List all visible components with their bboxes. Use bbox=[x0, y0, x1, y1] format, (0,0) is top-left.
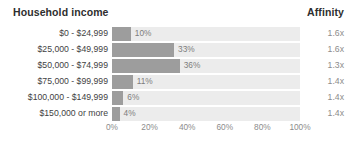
x-axis-tick-label: 0% bbox=[106, 122, 118, 132]
chart-row: $25,000 - $49,99933%1.6x bbox=[0, 42, 352, 58]
chart-header: Household income Affinity bbox=[0, 6, 352, 24]
x-axis-tick-label: 60% bbox=[216, 122, 233, 132]
chart-plot-area: $0 - $24,99910%1.6x$25,000 - $49,99933%1… bbox=[0, 26, 352, 120]
bar-value-label: 4% bbox=[124, 107, 136, 120]
chart-row: $50,000 - $74,99936%1.3x bbox=[0, 58, 352, 74]
chart-row: $150,000 or more4%1.4x bbox=[0, 106, 352, 122]
chart-row: $0 - $24,99910%1.6x bbox=[0, 26, 352, 42]
bar bbox=[112, 27, 131, 41]
bar-value-label: 10% bbox=[135, 27, 152, 40]
household-income-affinity-chart: Household income Affinity $0 - $24,99910… bbox=[0, 0, 352, 146]
affinity-value: 1.4x bbox=[328, 75, 344, 88]
x-axis-tick-label: 100% bbox=[289, 122, 310, 132]
bar bbox=[112, 75, 133, 89]
bar-track bbox=[112, 91, 300, 105]
page-title: Household income bbox=[13, 6, 109, 18]
bar-value-label: 11% bbox=[137, 75, 153, 88]
bar-value-label: 6% bbox=[127, 91, 139, 104]
bar bbox=[112, 91, 123, 105]
affinity-value: 1.6x bbox=[328, 27, 344, 40]
row-category-label: $75,000 - $99,999 bbox=[0, 75, 108, 88]
row-category-label: $50,000 - $74,999 bbox=[0, 59, 108, 72]
affinity-value: 1.3x bbox=[328, 59, 344, 72]
affinity-value: 1.6x bbox=[328, 43, 344, 56]
bar bbox=[112, 107, 120, 121]
bar-track bbox=[112, 43, 300, 57]
row-category-label: $100,000 - $149,999 bbox=[0, 91, 108, 104]
x-axis-tick-label: 80% bbox=[254, 122, 271, 132]
x-axis-tick-label: 40% bbox=[179, 122, 196, 132]
row-category-label: $0 - $24,999 bbox=[0, 27, 108, 40]
row-category-label: $150,000 or more bbox=[0, 107, 108, 120]
bar bbox=[112, 43, 174, 57]
bar-track bbox=[112, 59, 300, 73]
affinity-column-header: Affinity bbox=[307, 6, 344, 18]
affinity-value: 1.4x bbox=[328, 107, 344, 120]
chart-row: $100,000 - $149,9996%1.4x bbox=[0, 90, 352, 106]
chart-row: $75,000 - $99,99911%1.4x bbox=[0, 74, 352, 90]
x-axis-tick-label: 20% bbox=[141, 122, 158, 132]
x-axis: 0%20%40%60%80%100% bbox=[112, 122, 300, 136]
bar bbox=[112, 59, 180, 73]
bar-track bbox=[112, 107, 300, 121]
affinity-value: 1.4x bbox=[328, 91, 344, 104]
bar-value-label: 33% bbox=[178, 43, 195, 56]
bar-value-label: 36% bbox=[184, 59, 201, 72]
row-category-label: $25,000 - $49,999 bbox=[0, 43, 108, 56]
